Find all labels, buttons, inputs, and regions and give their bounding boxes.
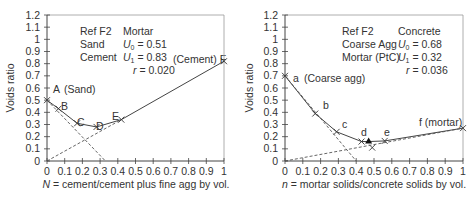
x-axis-label: n = mortar solids/concrete solids by vol… <box>282 178 466 190</box>
y-tick-label: 0.6 <box>263 82 278 94</box>
svg-text:c: c <box>342 118 347 130</box>
y-tick-label: 1 <box>272 33 278 45</box>
x-tick-label: 0.6 <box>146 165 161 177</box>
svg-text:Ref F2: Ref F2 <box>342 25 374 37</box>
y-tick-label: 0.8 <box>25 57 40 69</box>
y-tick-label: 0.2 <box>263 130 278 142</box>
y-tick-label: 0.5 <box>25 94 40 106</box>
svg-text:f (mortar): f (mortar) <box>419 116 462 128</box>
svg-text:b: b <box>323 99 329 111</box>
y-tick-label: 1.1 <box>25 21 40 33</box>
y-tick-label: 0.7 <box>25 69 40 81</box>
svg-text:Mortar: Mortar <box>123 25 154 37</box>
x-tick-label: 1 <box>460 165 466 177</box>
svg-text:U1 = 0.32: U1 = 0.32 <box>398 51 442 64</box>
mortar-chart: Voids ratio N = cement/cement plus fine … <box>4 9 230 191</box>
svg-text:(Sand): (Sand) <box>64 83 96 95</box>
svg-text:Sand: Sand <box>80 38 105 50</box>
x-tick-label: 0.8 <box>181 165 196 177</box>
info-box: Ref F2 Concrete Coarse Agg U0 = 0.68 Mor… <box>342 25 448 76</box>
info-box: Ref F2 Mortar Sand U0 = 0.51 Cement U1 =… <box>80 25 175 76</box>
x-tick-label: 0.3 <box>331 165 346 177</box>
x-tick-label: 0 <box>44 165 50 177</box>
x-tick-label: 0 <box>282 165 288 177</box>
x-tick-label: 0.2 <box>313 165 328 177</box>
svg-text:Concrete: Concrete <box>398 25 441 37</box>
y-tick-label: 0.4 <box>263 106 278 118</box>
voids-ratio-charts: Voids ratio N = cement/cement plus fine … <box>0 0 474 198</box>
y-tick-label: 0.9 <box>263 45 278 57</box>
concrete-chart: Voids ratio n = mortar solids/concrete s… <box>243 9 466 191</box>
svg-text:r = 0.036: r = 0.036 <box>406 64 448 76</box>
y-axis-label: Voids ratio <box>243 63 255 112</box>
y-tick-label: 0.3 <box>25 118 40 130</box>
svg-text:U0 = 0.68: U0 = 0.68 <box>398 38 442 51</box>
svg-text:Cement: Cement <box>80 51 117 63</box>
y-tick-label: 1.2 <box>25 9 40 21</box>
x-tick-label: 1 <box>221 165 227 177</box>
svg-text:a: a <box>293 72 299 84</box>
svg-text:B: B <box>61 100 68 112</box>
x-tick-label: 0.3 <box>93 165 108 177</box>
y-tick-label: 1.2 <box>263 9 278 21</box>
x-tick-label: 0.7 <box>402 165 417 177</box>
svg-text:A: A <box>53 83 60 95</box>
svg-text:Mortar (PtC): Mortar (PtC) <box>342 51 400 63</box>
x-marker <box>334 129 340 135</box>
x-tick-label: 0.1 <box>57 165 72 177</box>
y-tick-label: 0 <box>34 155 40 167</box>
y-tick-label: 1.1 <box>263 21 278 33</box>
y-tick-label: 0.2 <box>25 130 40 142</box>
svg-text:(Cement) F: (Cement) F <box>173 53 226 65</box>
measured-line <box>285 76 463 142</box>
y-tick-label: 0.1 <box>263 142 278 154</box>
y-tick-label: 0.8 <box>263 57 278 69</box>
y-tick-label: 0.1 <box>25 142 40 154</box>
x-tick-label: 0.9 <box>199 165 214 177</box>
y-tick-label: 0.9 <box>25 45 40 57</box>
svg-text:Coarse Agg: Coarse Agg <box>342 38 397 50</box>
y-tick-label: 0.6 <box>25 82 40 94</box>
svg-text:U1 = 0.83: U1 = 0.83 <box>123 51 167 64</box>
y-tick-label: 0.4 <box>25 106 40 118</box>
dashed-line-fine-limit <box>285 128 463 161</box>
y-tick-label: 0.3 <box>263 118 278 130</box>
triangle-marker <box>365 138 372 144</box>
x-tick-label: 0.9 <box>438 165 453 177</box>
x-tick-label: 0.5 <box>128 165 143 177</box>
svg-text:U0 = 0.51: U0 = 0.51 <box>123 38 167 51</box>
y-tick-label: 0.7 <box>263 69 278 81</box>
svg-text:e: e <box>384 126 390 138</box>
x-tick-label: 0.8 <box>420 165 435 177</box>
x-tick-label: 0.2 <box>75 165 90 177</box>
x-tick-label: 0.1 <box>295 165 310 177</box>
y-tick-label: 0 <box>272 155 278 167</box>
x-tick-label: 0.4 <box>110 165 125 177</box>
x-tick-label: 0.5 <box>367 165 382 177</box>
x-tick-label: 0.4 <box>349 165 364 177</box>
x-tick-label: 0.7 <box>164 165 179 177</box>
svg-text:(Coarse agg): (Coarse agg) <box>304 72 365 84</box>
svg-text:Ref F2: Ref F2 <box>80 25 112 37</box>
svg-text:r = 0.020: r = 0.020 <box>133 64 175 76</box>
point-labels: a (Coarse agg) b c d e f (mortar) <box>293 72 462 138</box>
y-tick-label: 1 <box>34 33 40 45</box>
svg-text:d: d <box>361 126 367 138</box>
x-axis-label: N = cement/cement plus fine agg by vol. <box>42 178 229 190</box>
x-tick-label: 0.6 <box>384 165 399 177</box>
y-tick-label: 0.5 <box>263 94 278 106</box>
y-axis-label: Voids ratio <box>4 63 16 112</box>
